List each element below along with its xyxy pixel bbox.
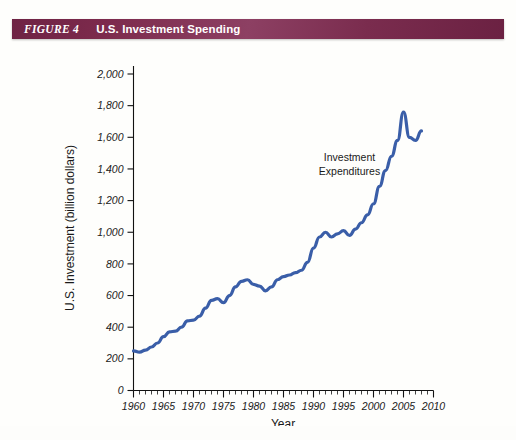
x-tick-label: 2005 [391,400,416,412]
y-tick-label: 1,600 [97,131,123,143]
x-axis-major-ticks [134,391,434,398]
x-tick-label: 1995 [332,400,356,412]
x-tick-label: 1990 [302,400,326,412]
x-tick-label: 2000 [361,400,386,412]
x-tick-label: 1985 [272,400,296,412]
x-axis-minor-ticks [140,391,428,395]
chart-container: 02004006008001,0001,2001,4001,6001,8002,… [0,0,516,440]
x-tick-label: 1965 [152,400,176,412]
y-tick-label: 1,800 [97,99,123,111]
y-tick-label: 1,400 [97,163,123,175]
line-chart: 02004006008001,0001,2001,4001,6001,8002,… [0,0,516,440]
y-axis-tick-labels: 02004006008001,0001,2001,4001,6001,8002,… [96,68,123,397]
y-tick-label: 800 [106,258,124,270]
x-tick-label: 1975 [212,400,236,412]
annotation-investment-expenditures-line1: Investment [324,151,375,163]
x-tick-label: 1980 [242,400,266,412]
y-tick-label: 2,000 [96,68,123,80]
figure-title-bar: FIGURE 4 U.S. Investment Spending [12,19,504,39]
page-bottom-edge [0,426,516,440]
y-tick-label: 600 [106,289,124,301]
x-axis-tick-labels: 1960196519701975198019851990199520002005… [122,400,446,412]
figure-number-label: FIGURE 4 [24,23,79,35]
y-axis-ticks [128,74,134,391]
y-tick-label: 1,200 [97,194,123,206]
y-tick-label: 1,000 [97,226,123,238]
annotation-investment-expenditures-line2: Expenditures [319,165,380,177]
data-series-investment-expenditures [134,112,422,352]
x-tick-label: 1970 [182,400,206,412]
figure-title: U.S. Investment Spending [96,23,240,35]
y-tick-label: 400 [106,321,124,333]
figure-root: FIGURE 4 U.S. Investment Spending 020040… [0,0,516,440]
y-tick-label: 200 [105,352,124,364]
x-tick-label: 2010 [421,400,446,412]
y-axis-title: U.S. Investment (billion dollars) [63,145,77,311]
y-tick-label: 0 [118,384,124,396]
x-tick-label: 1960 [122,400,146,412]
